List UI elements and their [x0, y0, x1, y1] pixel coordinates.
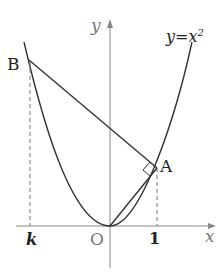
curve-label: y=x2	[166, 28, 204, 45]
tick-k-label: k	[26, 232, 37, 248]
origin-label: O	[90, 231, 104, 248]
segment-BA	[29, 60, 157, 168]
x-axis-label: x	[205, 228, 215, 245]
tick-1-label: 1	[149, 231, 160, 247]
point-b-label: B	[7, 56, 20, 73]
y-axis-arrow-icon	[107, 19, 113, 28]
point-a-label: A	[160, 158, 172, 175]
parabola-curve	[24, 42, 192, 226]
y-axis-label: y	[91, 17, 101, 34]
segment-OA	[110, 168, 157, 226]
